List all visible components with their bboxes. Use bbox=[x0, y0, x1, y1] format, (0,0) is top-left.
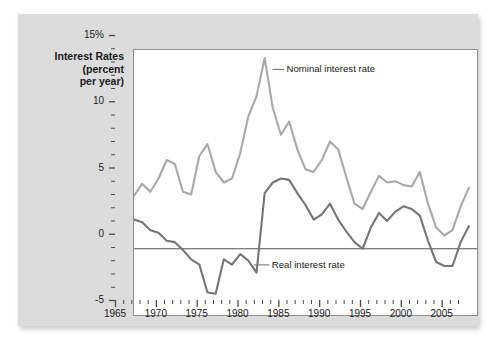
chart-figure: Interest Rates (percent per year) 15% 10… bbox=[0, 0, 490, 347]
chart-panel: Interest Rates (percent per year) 15% 10… bbox=[18, 14, 478, 326]
annotation-leader-lines bbox=[18, 14, 478, 326]
